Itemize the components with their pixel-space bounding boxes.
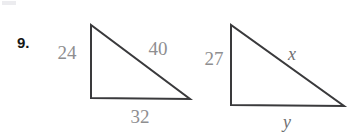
left-triangle-vertical-leg-label: 24 [58,43,77,62]
right-triangle [231,25,344,106]
left-triangle-hypotenuse-label: 40 [149,39,168,58]
left-triangle-outline [91,25,190,99]
left-triangle [91,25,190,99]
triangles-diagram [0,0,358,133]
left-triangle-base-label: 32 [131,107,150,126]
right-triangle-hypotenuse-label: x [288,45,296,63]
right-triangle-vertical-leg-label: 27 [205,49,224,68]
problem-figure-page: 9. 24 40 32 27 x y [0,0,358,133]
right-triangle-base-label: y [283,113,291,131]
right-triangle-outline [231,25,344,106]
